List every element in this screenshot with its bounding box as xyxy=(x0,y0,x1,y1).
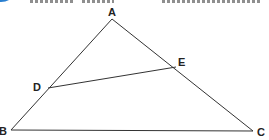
label-e: E xyxy=(178,56,185,68)
segment-bc xyxy=(11,130,253,131)
segment-ac xyxy=(112,19,253,131)
label-c: C xyxy=(257,126,265,138)
segment-ab xyxy=(11,19,112,130)
label-b: B xyxy=(0,125,7,137)
label-d: D xyxy=(33,81,41,93)
label-a: A xyxy=(108,6,116,18)
triangle-diagram: A B C D E xyxy=(0,0,269,140)
segment-de xyxy=(48,67,176,88)
